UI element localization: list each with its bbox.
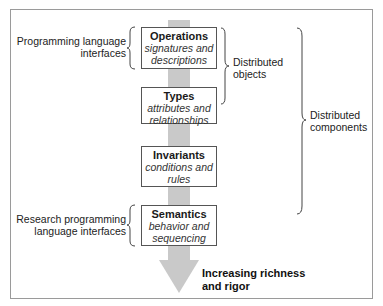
box-subtitle: sequencing: [142, 232, 216, 244]
box-subtitle: conditions and: [142, 161, 216, 173]
label-line: and rigor: [202, 280, 305, 293]
box-title: Types: [142, 90, 216, 102]
label-distributed-objects: Distributed objects: [233, 56, 283, 80]
label-line: Increasing richness: [202, 267, 305, 280]
label-line: objects: [233, 68, 283, 80]
box-subtitle: descriptions: [142, 54, 216, 66]
box-title: Invariants: [142, 149, 216, 161]
arrow-down-icon: [159, 260, 199, 293]
box-title: Operations: [142, 30, 216, 42]
label-line: components: [310, 121, 367, 133]
box-subtitle: relationships: [142, 114, 216, 126]
label-programming-language-interfaces: Programming language interfaces: [10, 35, 126, 59]
label-line: Research programming: [10, 213, 126, 225]
label-line: Distributed: [310, 109, 367, 121]
label-distributed-components: Distributed components: [310, 109, 367, 133]
label-line: Distributed: [233, 56, 283, 68]
right-brace-icon: [221, 28, 231, 104]
label-line: language interfaces: [10, 225, 126, 237]
box-semantics: Semantics behavior and sequencing: [141, 205, 217, 246]
box-subtitle: signatures and: [142, 42, 216, 54]
right-brace-icon: [297, 28, 307, 214]
label-line: interfaces: [10, 47, 126, 59]
box-invariants: Invariants conditions and rules: [141, 146, 217, 187]
box-operations: Operations signatures and descriptions: [141, 27, 217, 69]
box-subtitle: behavior and: [142, 220, 216, 232]
box-subtitle: attributes and: [142, 102, 216, 114]
left-brace-icon: [127, 27, 137, 69]
left-brace-icon: [127, 205, 137, 246]
arrow-label: Increasing richness and rigor: [202, 267, 305, 292]
box-subtitle: rules: [142, 173, 216, 185]
box-title: Semantics: [142, 208, 216, 220]
box-types: Types attributes and relationships: [141, 87, 217, 124]
label-line: Programming language: [10, 35, 126, 47]
label-research-programming-language-interfaces: Research programming language interfaces: [10, 213, 126, 237]
